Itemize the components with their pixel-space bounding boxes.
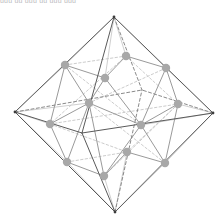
inner-edge-visible: [104, 125, 141, 176]
vertex-node: [123, 148, 131, 156]
inner-edge-visible: [165, 104, 178, 163]
vertex-node: [137, 121, 145, 129]
inner-edge-visible: [65, 65, 89, 103]
inner-edge-visible: [141, 68, 166, 125]
connector-edges: [15, 17, 213, 212]
outer-hidden-edges: [15, 17, 213, 212]
vertex-node: [61, 61, 69, 69]
octahedron-apex-points: [14, 16, 215, 214]
vertex-node: [161, 159, 169, 167]
apex-point: [114, 211, 117, 214]
inner-visible-edges: [50, 56, 178, 176]
connector-edge: [15, 103, 89, 112]
apex-point: [14, 111, 17, 114]
apex-point: [212, 112, 215, 115]
outer-edge-visible: [82, 17, 114, 133]
vertex-node: [63, 158, 71, 166]
inner-edge-visible: [89, 103, 104, 176]
connector-edge: [115, 152, 127, 212]
vertex-node: [174, 100, 182, 108]
inner-edge-hidden: [65, 65, 141, 125]
inner-edge-visible: [105, 78, 141, 125]
vertex-node: [162, 64, 170, 72]
vertex-node: [85, 99, 93, 107]
vertex-node: [46, 120, 54, 128]
apex-point: [113, 16, 116, 19]
outer-edge-visible: [82, 133, 115, 212]
inner-hidden-edges: [50, 56, 178, 176]
vertex-node: [100, 172, 108, 180]
cuboctahedron-nodes: [46, 52, 182, 180]
outer-visible-edges: [15, 17, 213, 212]
inner-edge-hidden: [65, 56, 126, 65]
polyhedron-figure: uuu uu uuu uu uuu uuu: [0, 0, 224, 223]
vertex-node: [122, 52, 130, 60]
connector-edge: [105, 17, 114, 78]
vertex-node: [101, 74, 109, 82]
inner-edge-visible: [50, 65, 65, 124]
polyhedron-svg: [0, 0, 224, 223]
